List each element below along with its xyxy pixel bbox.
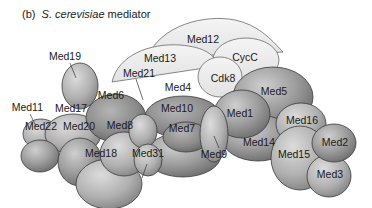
head-module [21,63,148,208]
label-med12: Med12 [187,33,219,45]
label-med6: Med6 [98,89,124,101]
label-med18: Med18 [85,147,117,159]
label-med16: Med16 [286,114,318,126]
label-med3: Med3 [317,168,343,180]
med21-shape [129,114,157,148]
mediator-diagram: Med12 CycC Med13 Cdk8 Med19 Med11 Med21 … [0,0,372,208]
label-med13: Med13 [144,52,176,64]
label-med14: Med14 [243,136,275,148]
label-med7: Med7 [169,122,195,134]
label-med5: Med5 [261,85,287,97]
label-med8: Med8 [107,119,133,131]
label-med21: Med21 [123,67,155,79]
label-med20: Med20 [63,120,95,132]
label-med31: Med31 [132,147,164,159]
label-med11: Med11 [12,101,43,113]
med21-leader [136,79,143,100]
label-med22: Med22 [25,120,57,132]
label-med17: Med17 [55,102,87,114]
label-med10: Med10 [161,102,193,114]
med22-shape [21,140,59,172]
label-cdk8: Cdk8 [211,72,236,84]
label-med4: Med4 [165,81,191,93]
label-med1: Med1 [227,107,253,119]
label-med19: Med19 [49,50,81,62]
label-med2: Med2 [322,136,348,148]
label-med15: Med15 [278,148,310,160]
label-med9: Med9 [201,148,227,160]
label-cycc: CycC [232,51,258,63]
